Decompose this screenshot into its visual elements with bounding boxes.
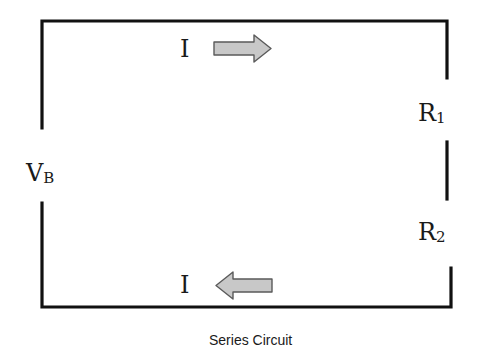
resistor-2-label-subscript: 2 [436, 228, 446, 246]
current-label-top: I [180, 37, 189, 61]
resistor-1-label: R1 [418, 101, 446, 126]
resistor-2-label: R2 [418, 220, 446, 245]
resistor-1-label-subscript: 1 [436, 109, 446, 127]
series-circuit-diagram [0, 0, 488, 360]
wire-top [42, 21, 447, 128]
circuit-wires [42, 21, 451, 307]
battery-label-main: V [26, 159, 43, 187]
current-arrow-right-icon [214, 35, 271, 62]
current-arrow-left-icon [216, 272, 272, 299]
battery-voltage-label: VB [26, 161, 54, 186]
resistor-2-label-main: R [418, 218, 436, 246]
battery-label-subscript: B [43, 169, 54, 187]
current-label-bottom: I [180, 273, 189, 297]
diagram-caption: Series Circuit [209, 333, 292, 347]
resistor-1-label-main: R [418, 99, 436, 127]
